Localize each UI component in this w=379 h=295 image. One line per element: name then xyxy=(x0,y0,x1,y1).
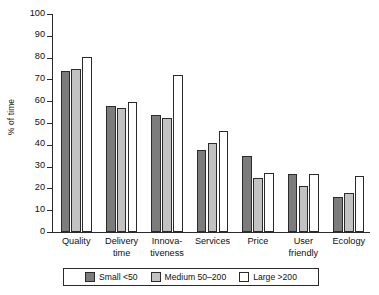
x-axis-label: Deliverytime xyxy=(99,236,144,259)
y-tick-label: 60 xyxy=(35,95,45,105)
legend-label: Large >200 xyxy=(253,272,297,282)
bar xyxy=(264,173,274,232)
legend-entry: Large >200 xyxy=(239,272,297,282)
bar xyxy=(106,106,116,232)
x-axis-label-line: Services xyxy=(190,236,235,248)
x-axis-label-line: Ecology xyxy=(326,236,371,248)
bar xyxy=(151,115,161,232)
y-tick-label: 50 xyxy=(35,117,45,127)
y-tick-label: 90 xyxy=(35,29,45,39)
bar xyxy=(197,150,207,232)
x-axis-label: Userfriendly xyxy=(281,236,326,259)
bars-layer xyxy=(52,14,370,232)
x-axis-label: Innova-tiveness xyxy=(144,236,189,259)
x-axis-label: Quality xyxy=(54,236,99,248)
x-axis-label-line: User xyxy=(281,236,326,248)
x-axis-label: Ecology xyxy=(326,236,371,248)
bar xyxy=(71,69,81,233)
x-axis-label-line: Delivery xyxy=(99,236,144,248)
legend-swatch-small xyxy=(85,272,95,282)
y-tick-label: 20 xyxy=(35,182,45,192)
bar xyxy=(208,143,218,232)
bar xyxy=(253,178,263,233)
bar xyxy=(173,75,183,232)
bar xyxy=(82,57,92,232)
x-axis-label: Services xyxy=(190,236,235,248)
bar xyxy=(162,118,172,232)
bar xyxy=(242,156,252,232)
y-axis-title: % of time xyxy=(6,87,16,147)
y-tick-label: 30 xyxy=(35,160,45,170)
bar-chart: % of time 0102030405060708090100 Quality… xyxy=(0,0,379,295)
legend-entry: Small <50 xyxy=(85,272,137,282)
bar xyxy=(61,71,71,232)
x-axis-label-line: tiveness xyxy=(144,248,189,260)
bar xyxy=(344,193,354,232)
x-axis-label: Price xyxy=(235,236,280,248)
y-tick-label: 70 xyxy=(35,73,45,83)
legend-label: Small <50 xyxy=(99,272,137,282)
y-tick-label: 10 xyxy=(35,204,45,214)
chart-legend: Small <50Medium 50–200Large >200 xyxy=(63,268,319,286)
x-axis-label-line: friendly xyxy=(281,248,326,260)
legend-swatch-large xyxy=(239,272,249,282)
y-tick-label: 40 xyxy=(35,138,45,148)
y-tick-label: 100 xyxy=(30,8,45,18)
bar xyxy=(333,197,343,232)
x-axis-line xyxy=(52,232,370,233)
bar xyxy=(128,102,138,232)
plot-area: 0102030405060708090100 xyxy=(52,14,370,232)
legend-entry: Medium 50–200 xyxy=(151,272,227,282)
x-axis-label-line: Quality xyxy=(54,236,99,248)
x-axis-label-line: Innova- xyxy=(144,236,189,248)
bar xyxy=(355,176,365,232)
y-tick-mark xyxy=(47,232,52,233)
bar xyxy=(299,186,309,232)
bar xyxy=(219,131,229,232)
x-axis-label-line: time xyxy=(99,248,144,260)
bar xyxy=(117,108,127,232)
bar xyxy=(309,174,319,232)
legend-swatch-medium xyxy=(151,272,161,282)
legend-label: Medium 50–200 xyxy=(165,272,227,282)
y-tick-label: 0 xyxy=(40,226,45,236)
y-tick-label: 80 xyxy=(35,51,45,61)
x-axis-label-line: Price xyxy=(235,236,280,248)
bar xyxy=(288,174,298,232)
